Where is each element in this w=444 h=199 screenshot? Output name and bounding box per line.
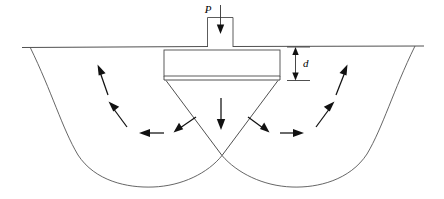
arrow-left-mid-up	[109, 102, 128, 128]
depth-label: d	[303, 57, 309, 69]
ground-surface-line	[22, 46, 424, 48]
arrow-left-lower-inward	[174, 117, 197, 133]
arrow-right-upper-up	[336, 65, 348, 96]
footing-base	[164, 50, 280, 80]
arrow-right-mid-up	[316, 102, 335, 128]
applied-load-arrow	[217, 5, 224, 34]
active-wedge	[166, 81, 278, 156]
arrow-right-lower-inward	[248, 117, 270, 133]
arrow-right-horizontal	[280, 129, 304, 137]
bearing-capacity-figure: P d	[0, 0, 444, 199]
arrow-center-down	[217, 98, 225, 130]
arrow-left-upper-up	[98, 65, 109, 96]
arrow-left-horizontal	[139, 129, 164, 137]
load-label: P	[204, 3, 212, 15]
